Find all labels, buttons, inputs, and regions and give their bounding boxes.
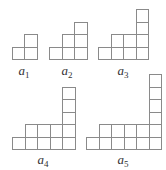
label-subscript: 5 — [124, 159, 129, 169]
grid-cell — [24, 47, 38, 61]
grid-cell — [136, 137, 150, 151]
figure-label: a1 — [19, 64, 30, 80]
grid-cell — [86, 137, 100, 151]
grid-cell — [149, 87, 163, 101]
grid-cell — [50, 124, 64, 138]
figure-label: a3 — [118, 64, 129, 80]
grid-cell — [62, 124, 76, 138]
grid-cell — [149, 137, 163, 151]
grid-cell — [62, 112, 76, 126]
grid-cell — [149, 124, 163, 138]
grid-cell — [99, 137, 113, 151]
grid-cell — [49, 47, 63, 61]
grid-cell — [136, 34, 150, 48]
grid-cell — [136, 47, 150, 61]
grid-cell — [62, 34, 76, 48]
grid-cell — [25, 124, 39, 138]
grid-cell — [12, 47, 26, 61]
label-subscript: 1 — [25, 70, 30, 80]
grid-cell — [123, 47, 137, 61]
figure-label: a4 — [38, 153, 49, 169]
figure-label: a2 — [62, 64, 73, 80]
grid-cell — [24, 34, 38, 48]
grid-cell — [124, 124, 138, 138]
grid-cell — [74, 22, 88, 36]
grid-cell — [50, 137, 64, 151]
grid-cell — [111, 124, 125, 138]
figure-label: a5 — [118, 153, 129, 169]
grid-cell — [25, 137, 39, 151]
grid-cell — [123, 34, 137, 48]
label-subscript: 4 — [44, 159, 49, 169]
grid-cell — [124, 137, 138, 151]
grid-cell — [111, 137, 125, 151]
grid-cell — [99, 124, 113, 138]
grid-cell — [37, 137, 51, 151]
grid-cell — [12, 137, 26, 151]
grid-cell — [136, 124, 150, 138]
grid-cell — [111, 34, 125, 48]
grid-cell — [74, 47, 88, 61]
label-subscript: 2 — [68, 70, 73, 80]
grid-cell — [62, 47, 76, 61]
grid-cell — [62, 99, 76, 113]
label-subscript: 3 — [124, 70, 129, 80]
grid-cell — [37, 124, 51, 138]
grid-cell — [62, 87, 76, 101]
grid-cell — [74, 34, 88, 48]
grid-cell — [149, 112, 163, 126]
grid-cell — [62, 137, 76, 151]
grid-cell — [111, 47, 125, 61]
grid-cell — [149, 74, 163, 88]
grid-cell — [136, 9, 150, 23]
grid-cell — [136, 22, 150, 36]
grid-cell — [149, 99, 163, 113]
grid-cell — [98, 47, 112, 61]
